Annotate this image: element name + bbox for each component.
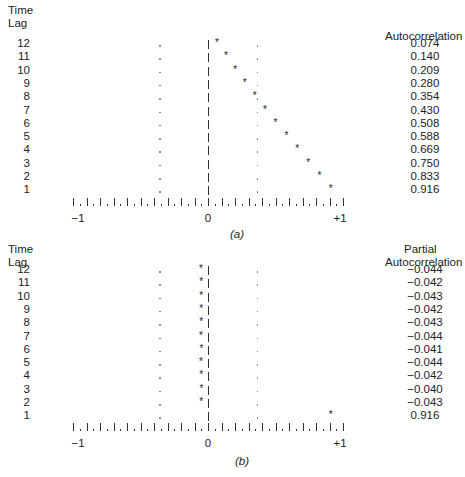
major-tick	[235, 198, 236, 206]
major-tick	[208, 423, 209, 431]
data-point-star: *	[199, 344, 203, 354]
significance-bound-dot	[257, 404, 259, 406]
significance-bound-dot	[257, 284, 259, 286]
significance-bound-dot	[257, 364, 259, 366]
minor-tick	[228, 204, 229, 206]
significance-bound-dot	[257, 377, 259, 379]
major-tick	[235, 423, 236, 431]
major-tick	[343, 198, 344, 206]
zero-line-segment	[208, 279, 209, 288]
data-point-star: *	[317, 171, 321, 181]
lag-label: 10	[0, 64, 30, 76]
significance-bound-dot	[257, 165, 259, 167]
minor-tick	[120, 204, 121, 206]
zero-line-segment	[208, 319, 209, 328]
value-label: 0.508	[380, 117, 465, 129]
major-tick	[276, 423, 277, 431]
minor-tick	[255, 429, 256, 431]
significance-bound-dot	[159, 417, 161, 419]
zero-line-segment	[208, 266, 209, 275]
major-tick	[343, 423, 344, 431]
significance-bound-dot	[159, 165, 161, 167]
major-tick	[303, 198, 304, 206]
zero-line-segment	[208, 160, 209, 169]
major-tick	[87, 198, 88, 206]
value-label: 0.354	[380, 90, 465, 102]
data-point-star: *	[199, 397, 203, 407]
data-point-star: *	[199, 264, 203, 274]
data-point-star: *	[274, 118, 278, 128]
major-tick	[330, 423, 331, 431]
major-tick	[262, 423, 263, 431]
significance-bound-dot	[159, 58, 161, 60]
value-label: 0.669	[380, 143, 465, 155]
major-tick	[154, 198, 155, 206]
minor-tick	[201, 204, 202, 206]
value-label: −0.041	[380, 343, 465, 355]
lag-label: 2	[0, 170, 30, 182]
value-label: 0.916	[380, 409, 465, 421]
lag-label: 6	[0, 117, 30, 129]
partial-header: Partial	[404, 243, 437, 255]
major-tick	[181, 198, 182, 206]
significance-bound-dot	[257, 45, 259, 47]
major-tick	[73, 198, 74, 206]
major-tick	[100, 198, 101, 206]
data-point-star: *	[199, 357, 203, 367]
zero-line-segment	[208, 386, 209, 395]
value-label: 0.140	[380, 50, 465, 62]
zero-line-segment	[208, 293, 209, 302]
data-point-star: *	[199, 370, 203, 380]
data-point-star: *	[199, 291, 203, 301]
data-point-star: *	[284, 131, 288, 141]
minor-tick	[323, 204, 324, 206]
value-label: −0.043	[380, 290, 465, 302]
data-point-star: *	[306, 158, 310, 168]
axis-label-zero: 0	[205, 437, 211, 449]
data-point-star: *	[263, 105, 267, 115]
value-label: 0.074	[380, 37, 465, 49]
zero-line-segment	[208, 133, 209, 142]
axis-label-zero: 0	[205, 212, 211, 224]
major-tick	[100, 423, 101, 431]
minor-tick	[242, 429, 243, 431]
significance-bound-dot	[159, 377, 161, 379]
minor-tick	[242, 204, 243, 206]
lag-label: 9	[0, 303, 30, 315]
zero-line-segment	[208, 399, 209, 408]
lag-label: 11	[0, 276, 30, 288]
lag-label: 2	[0, 396, 30, 408]
value-label: −0.043	[380, 316, 465, 328]
significance-bound-dot	[159, 338, 161, 340]
significance-bound-dot	[159, 324, 161, 326]
significance-bound-dot	[257, 72, 259, 74]
lag-label: 7	[0, 330, 30, 342]
minor-tick	[134, 204, 135, 206]
significance-bound-dot	[159, 72, 161, 74]
major-tick	[276, 198, 277, 206]
major-tick	[114, 198, 115, 206]
significance-bound-dot	[159, 138, 161, 140]
zero-line-segment	[208, 412, 209, 421]
minor-tick	[80, 429, 81, 431]
data-point-star: *	[243, 78, 247, 88]
significance-bound-dot	[257, 151, 259, 153]
significance-bound-dot	[257, 311, 259, 313]
zero-line-segment	[208, 186, 209, 195]
value-label: 0.833	[380, 170, 465, 182]
minor-tick	[323, 429, 324, 431]
major-tick	[303, 423, 304, 431]
minor-tick	[282, 429, 283, 431]
value-label: 0.430	[380, 104, 465, 116]
minor-tick	[309, 429, 310, 431]
axis-label-min: −1	[71, 212, 84, 224]
minor-tick	[201, 429, 202, 431]
major-tick	[168, 423, 169, 431]
data-point-star: *	[199, 331, 203, 341]
lag-label: 3	[0, 157, 30, 169]
value-label: −0.042	[380, 303, 465, 315]
significance-bound-dot	[257, 112, 259, 114]
significance-bound-dot	[159, 284, 161, 286]
lag-header: Lag	[8, 17, 27, 29]
significance-bound-dot	[159, 391, 161, 393]
